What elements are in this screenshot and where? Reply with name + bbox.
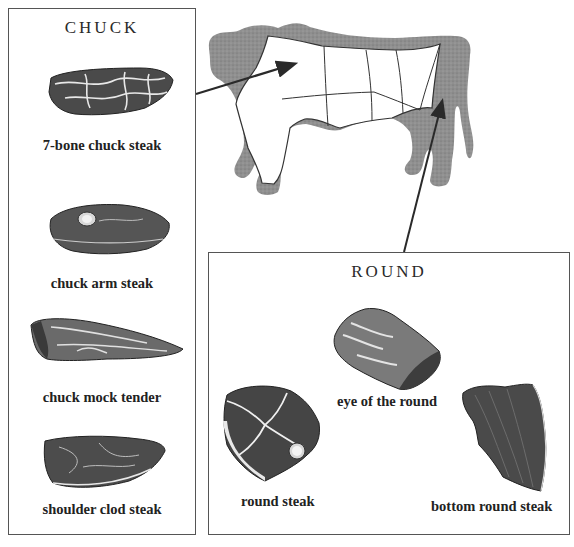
eye-of-the-round-image bbox=[327, 305, 447, 393]
seven-bone-chuck-steak-image bbox=[45, 64, 177, 118]
cut-label-shoulder-clod-steak: shoulder clod steak bbox=[9, 501, 195, 518]
cut-label-bottom-round-steak: bottom round steak bbox=[431, 498, 552, 515]
shoulder-clod-steak-image bbox=[39, 433, 169, 491]
cut-label-7-bone-chuck-steak: 7-bone chuck steak bbox=[9, 137, 195, 154]
cut-label-chuck-mock-tender: chuck mock tender bbox=[9, 389, 195, 406]
round-steak-image bbox=[221, 381, 327, 483]
chuck-arm-steak-image bbox=[43, 199, 175, 259]
chuck-title: CHUCK bbox=[9, 18, 195, 38]
cut-label-chuck-arm-steak: chuck arm steak bbox=[9, 275, 195, 292]
chuck-mock-tender-image bbox=[27, 315, 187, 365]
chuck-section: CHUCK 7-bone chuck steak chuck arm steak… bbox=[8, 8, 196, 535]
round-title: ROUND bbox=[209, 262, 569, 282]
round-section: ROUND eye of the round round steak bbox=[208, 252, 570, 535]
bottom-round-steak-image bbox=[459, 381, 549, 493]
cut-label-round-steak: round steak bbox=[241, 493, 314, 510]
cut-label-eye-of-the-round: eye of the round bbox=[337, 393, 437, 410]
